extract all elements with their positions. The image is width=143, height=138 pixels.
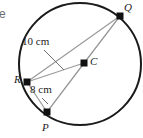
measure-label-8cm: 8 cm — [30, 84, 52, 95]
circle-geometry-figure: e Q C R P 10 cm 8 cm — [0, 0, 143, 138]
point-marker-P — [44, 109, 51, 116]
point-label-R: R — [14, 74, 21, 85]
point-label-Q: Q — [124, 2, 132, 13]
leader-line-10cm — [44, 50, 64, 70]
leader-line-8cm — [42, 98, 48, 104]
segment-R-Q — [27, 16, 120, 82]
chord-group — [27, 16, 120, 112]
point-label-P: P — [42, 122, 49, 133]
point-label-C: C — [90, 56, 97, 67]
page-edge-text-fragment: e — [0, 8, 6, 20]
point-marker-Q — [117, 13, 124, 20]
point-marker-C — [81, 60, 88, 67]
geometry-canvas — [0, 0, 143, 138]
segment-R-C — [27, 63, 84, 82]
measure-label-10cm: 10 cm — [22, 36, 49, 47]
